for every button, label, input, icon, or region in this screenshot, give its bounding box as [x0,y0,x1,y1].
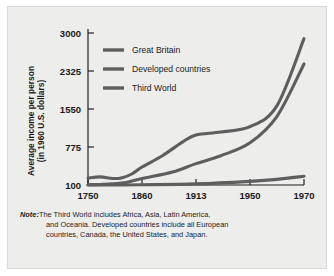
note-text-1: The Third World includes Africa, Asia, L… [39,210,210,219]
chart-note: Note:The Third World includes Africa, As… [20,210,318,241]
x-tick-label-1970: 1970 [293,190,314,201]
legend-label-third-world: Third World [132,83,176,93]
x-tick-label-1913: 1913 [185,190,206,201]
y-axis-title-line-1: Average income per person [26,66,36,176]
legend-label-developed-countries: Developed countries [132,64,210,74]
y-tick-label-775: 775 [65,142,82,153]
note-line-1: Note:The Third World includes Africa, As… [20,210,318,220]
y-tick-label-3000: 3000 [60,28,81,39]
y-axis-title: Average income per person (in 1960 U.S. … [26,66,46,176]
series-line-developed-countries [88,64,304,185]
note-label: Note: [20,210,39,219]
x-tick-label-1860: 1860 [131,190,152,201]
chart-legend: Great Britain Developed countries Third … [103,45,210,93]
y-axis-title-line-2: (in 1960 U.S. dollars) [36,80,46,163]
x-axis-tick-labels: 1750 1860 1913 1950 1970 [77,190,314,201]
note-line-3: countries, Canada, the United States, an… [20,230,318,240]
y-tick-label-100: 100 [65,180,81,191]
y-axis-tick-marks [88,33,94,185]
note-line-2: and Oceania. Developed countries include… [20,220,318,230]
y-tick-label-2325: 2325 [60,66,82,77]
figure-panel: Average income per person (in 1960 U.S. … [7,6,327,269]
y-axis-tick-labels: 3000 2325 1550 775 100 [60,28,82,191]
series-group [88,39,304,185]
x-tick-label-1950: 1950 [239,190,260,201]
legend-label-great-britain: Great Britain [132,45,180,55]
series-line-great-britain [88,39,304,179]
x-tick-label-1750: 1750 [77,190,98,201]
y-tick-label-1550: 1550 [60,104,81,115]
